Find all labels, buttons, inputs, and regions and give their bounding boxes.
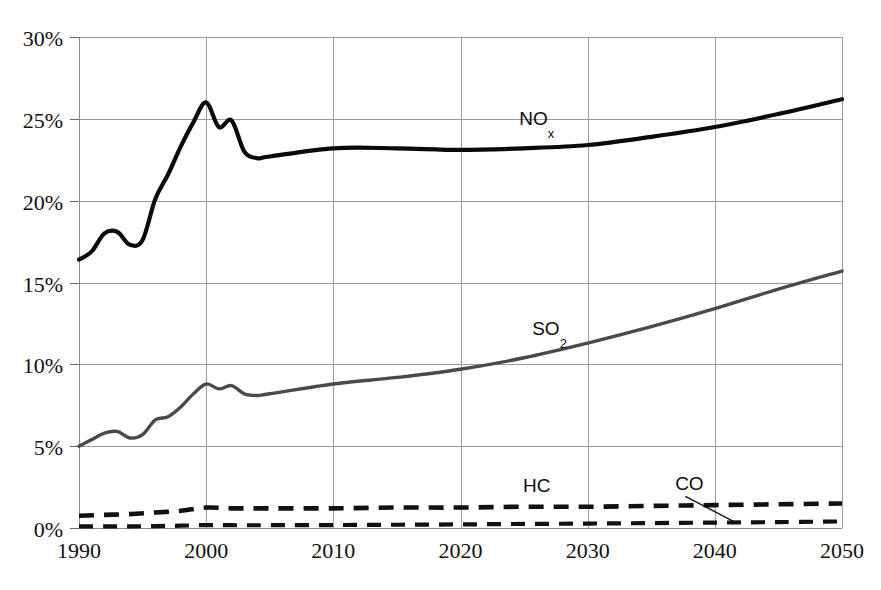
x-axis-tick-label: 2020 [439,538,483,563]
y-axis-tick-label: 25% [23,108,63,133]
series-label-nox: NOx [519,108,555,141]
gridlines [79,37,843,529]
y-axis-tick-label: 10% [23,353,63,378]
series-label-so2: SO2 [532,318,567,351]
chart-container: 0%5%10%15%20%25%30%199020002010202020302… [0,0,881,590]
series-line-co [79,521,842,526]
axes [79,37,842,529]
series-line-so2 [79,271,842,446]
y-axis-tick-label: 15% [23,272,63,297]
x-axis-tick-label: 1990 [57,538,101,563]
data-series [79,99,842,526]
series-label-co: CO [675,473,704,494]
series-line-hc [79,503,842,515]
axis-ticks [70,38,79,529]
series-label-hc: HC [523,475,550,496]
x-axis-tick-label: 2040 [693,538,737,563]
series-line-nox [79,99,842,259]
x-axis-tick-label: 2050 [820,538,864,563]
y-axis-tick-label: 30% [23,26,63,51]
y-axis-tick-label: 20% [23,190,63,215]
y-axis-tick-label: 5% [34,435,63,460]
co-leader-line [685,496,734,521]
x-axis-tick-label: 2030 [566,538,610,563]
x-axis-tick-label: 2010 [311,538,355,563]
series-annotations: NOxSO2HCCO [519,108,734,521]
emissions-line-chart: 0%5%10%15%20%25%30%199020002010202020302… [0,0,881,590]
axis-tick-labels: 0%5%10%15%20%25%30%199020002010202020302… [23,26,864,564]
x-axis-tick-label: 2000 [184,538,228,563]
